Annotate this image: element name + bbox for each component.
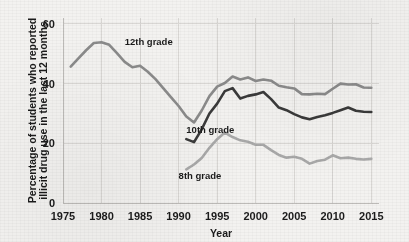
x-tick-label-1990: 1990: [166, 210, 190, 222]
x-tick-label-2010: 2010: [321, 210, 345, 222]
x-tick-label-1980: 1980: [89, 210, 113, 222]
series-label-12th-grade: 12th grade: [125, 36, 173, 47]
x-tick-label-1985: 1985: [128, 210, 152, 222]
x-tick-label-2005: 2005: [282, 210, 306, 222]
x-tick-label-2015: 2015: [359, 210, 383, 222]
series-label-8th-grade: 8th grade: [179, 170, 222, 181]
y-axis-title-line-2: illicit drug use in the last 12 months: [37, 21, 49, 200]
x-tick-label-1975: 1975: [51, 210, 75, 222]
illicit-drug-use-line-chart: 0204060197519801985199019952000200520102…: [0, 0, 409, 242]
x-axis-title: Year: [210, 227, 232, 239]
series-label-10th-grade: 10th grade: [186, 124, 234, 135]
x-tick-label-1995: 1995: [205, 210, 229, 222]
chart-canvas: 0204060197519801985199019952000200520102…: [0, 0, 409, 242]
y-tick-label-0: 0: [49, 197, 55, 209]
series-line-8th-grade: [186, 133, 371, 170]
series-line-12th-grade: [71, 42, 372, 122]
x-tick-label-2000: 2000: [243, 210, 267, 222]
